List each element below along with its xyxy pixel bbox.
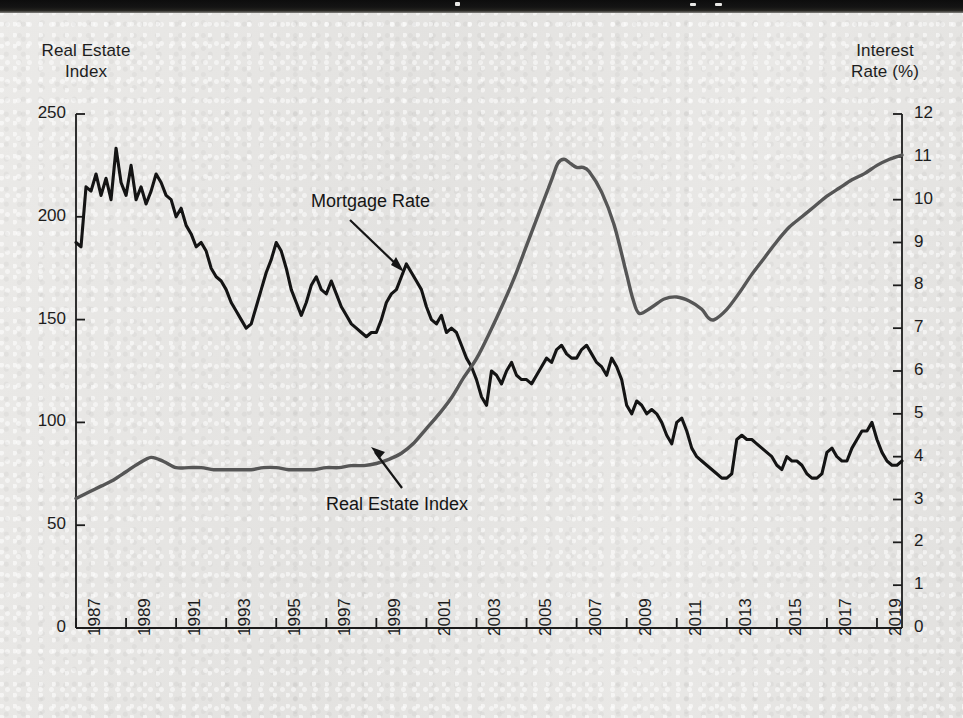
x-tick-label-1991: 1991 bbox=[185, 598, 205, 636]
mortgage-rate-annotation-label: Mortgage Rate bbox=[311, 191, 430, 212]
x-tick-label-2007: 2007 bbox=[586, 598, 606, 636]
series-line-mortgage-rate bbox=[76, 148, 902, 478]
axes-layer bbox=[76, 114, 902, 628]
left-tick-label-0: 0 bbox=[14, 617, 66, 637]
left-tick-label-250: 250 bbox=[14, 103, 66, 123]
right-tick-label-10: 10 bbox=[914, 189, 954, 209]
x-tick-label-2003: 2003 bbox=[485, 598, 505, 636]
x-tick-label-1999: 1999 bbox=[385, 598, 405, 636]
right-tick-label-2: 2 bbox=[914, 531, 954, 551]
x-tick-label-1989: 1989 bbox=[135, 598, 155, 636]
x-tick-label-1993: 1993 bbox=[235, 598, 255, 636]
left-tick-label-50: 50 bbox=[14, 514, 66, 534]
right-tick-label-0: 0 bbox=[914, 617, 954, 637]
x-tick-label-2009: 2009 bbox=[636, 598, 656, 636]
right-tick-label-6: 6 bbox=[914, 360, 954, 380]
real-estate-index-annotation-label: Real Estate Index bbox=[326, 494, 468, 515]
x-tick-label-2001: 2001 bbox=[435, 598, 455, 636]
x-tick-label-2011: 2011 bbox=[686, 599, 706, 636]
right-tick-label-9: 9 bbox=[914, 232, 954, 252]
x-tick-label-2013: 2013 bbox=[736, 598, 756, 636]
right-tick-label-7: 7 bbox=[914, 317, 954, 337]
x-tick-label-2005: 2005 bbox=[536, 598, 556, 636]
x-tick-label-2017: 2017 bbox=[836, 598, 856, 636]
real-estate-index-arrowhead bbox=[371, 447, 385, 459]
series-line-real-estate-index bbox=[76, 155, 902, 498]
left-tick-label-200: 200 bbox=[14, 206, 66, 226]
mortgage-rate-arrow bbox=[350, 220, 400, 268]
x-tick-label-2019: 2019 bbox=[886, 598, 906, 636]
right-tick-label-12: 12 bbox=[914, 103, 954, 123]
mortgage-rate-arrowhead bbox=[391, 257, 404, 272]
right-tick-label-8: 8 bbox=[914, 274, 954, 294]
x-tick-label-1987: 1987 bbox=[85, 598, 105, 636]
right-tick-label-1: 1 bbox=[914, 574, 954, 594]
right-tick-label-11: 11 bbox=[914, 146, 954, 166]
series-layer bbox=[76, 148, 902, 498]
x-tick-label-1995: 1995 bbox=[285, 598, 305, 636]
annotation-layer bbox=[350, 220, 404, 488]
left-tick-label-100: 100 bbox=[14, 411, 66, 431]
x-tick-label-1997: 1997 bbox=[335, 598, 355, 636]
right-tick-label-3: 3 bbox=[914, 489, 954, 509]
left-tick-label-150: 150 bbox=[14, 309, 66, 329]
x-tick-label-2015: 2015 bbox=[786, 598, 806, 636]
right-tick-label-5: 5 bbox=[914, 403, 954, 423]
right-tick-label-4: 4 bbox=[914, 446, 954, 466]
